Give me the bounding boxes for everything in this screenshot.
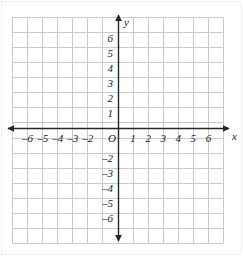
y-axis-tick-label: 3	[97, 78, 113, 89]
y-axis-tick-label: –2	[97, 153, 113, 164]
x-axis-tick-label: –5	[35, 133, 51, 144]
y-axis-tick-label: –3	[97, 168, 113, 179]
x-axis-tick-label: –3	[65, 133, 81, 144]
y-axis-tick-label: 6	[97, 33, 113, 44]
x-axis-tick-label: –2	[80, 133, 96, 144]
grid-and-axes-svg	[0, 0, 243, 256]
y-axis-name: y	[124, 17, 129, 28]
y-axis-tick-label: 2	[97, 93, 113, 104]
y-axis-tick-label: 5	[97, 48, 113, 59]
y-axis-tick-label: –6	[97, 213, 113, 224]
x-axis-tick-label: 2	[140, 133, 156, 144]
coordinate-plane-figure: –6–5–4–3–2123456654321–2–3–4–5–6 O x y	[0, 0, 243, 256]
origin-label: O	[108, 133, 116, 144]
y-axis-tick-label: –4	[97, 183, 113, 194]
x-axis-tick-label: 4	[170, 133, 186, 144]
x-axis-tick-label: 3	[155, 133, 171, 144]
x-axis-tick-label: –4	[50, 133, 66, 144]
x-axis-tick-label: 6	[200, 133, 216, 144]
y-axis-tick-label: 4	[97, 63, 113, 74]
x-axis-tick-label: –6	[20, 133, 36, 144]
x-axis-name: x	[232, 131, 237, 142]
y-axis-tick-label: 1	[97, 108, 113, 119]
x-axis-tick-label: 1	[125, 133, 141, 144]
x-axis-tick-label: 5	[185, 133, 201, 144]
y-axis-tick-label: –5	[97, 198, 113, 209]
